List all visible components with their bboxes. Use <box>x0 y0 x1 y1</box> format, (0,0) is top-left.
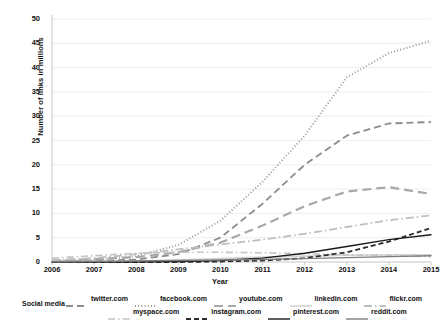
legend-swatch-icon <box>66 295 88 301</box>
legend-swatch-icon <box>186 308 208 314</box>
legend-item-instagram-com[interactable]: instagram.com <box>186 308 261 315</box>
series-line-twitter-com <box>52 122 431 261</box>
x-tick-label: 2008 <box>116 265 156 274</box>
legend-item-pinterest-com[interactable]: pinterest.com <box>268 308 339 315</box>
legend-label: facebook.com <box>160 295 207 302</box>
legend-label: flickr.com <box>389 295 422 302</box>
legend-swatch-icon <box>268 308 290 314</box>
x-tick-label: 2011 <box>243 265 283 274</box>
x-tick-label: 2007 <box>74 265 114 274</box>
legend-swatch-icon <box>135 295 157 301</box>
series-line-facebook-com <box>52 41 431 261</box>
series-lines <box>52 41 431 262</box>
x-tick-label: 2013 <box>327 265 367 274</box>
legend-label: instagram.com <box>211 308 261 315</box>
legend-item-youtube-com[interactable]: youtube.com <box>214 295 283 302</box>
y-tick-label: 15 <box>14 184 40 193</box>
x-tick-label: 2014 <box>369 265 409 274</box>
legend-row-primary: twitter.comfacebook.comyoutube.comlinked… <box>66 292 429 304</box>
y-tick-label: 40 <box>14 63 40 72</box>
legend-title: Social media <box>22 300 65 307</box>
legend-swatch-icon <box>364 295 386 301</box>
legend-item-reddit-com[interactable]: reddit.com <box>346 308 407 315</box>
gridlines <box>52 19 431 262</box>
legend-label: reddit.com <box>371 308 407 315</box>
y-tick-label: 50 <box>14 14 40 23</box>
x-tick-label: 2009 <box>158 265 198 274</box>
legend-swatch-icon <box>346 308 368 314</box>
legend-swatch-icon <box>108 308 130 314</box>
legend-label: pinterest.com <box>293 308 339 315</box>
legend-label: linkedin.com <box>315 295 358 302</box>
series-line-youtube-com <box>52 187 431 260</box>
y-tick-label: 45 <box>14 38 40 47</box>
legend-label: myspace.com <box>133 308 179 315</box>
legend-item-myspace-com[interactable]: myspace.com <box>108 308 179 315</box>
legend-item-linkedin-com[interactable]: linkedin.com <box>290 295 358 302</box>
legend-item-twitter-com[interactable]: twitter.com <box>66 295 128 302</box>
x-tick-label: 2015 <box>411 265 440 274</box>
y-tick-label: 20 <box>14 160 40 169</box>
x-tick-label: 2010 <box>200 265 240 274</box>
x-tick-label: 2006 <box>32 265 72 274</box>
legend: Social media twitter.comfacebook.comyout… <box>0 291 440 330</box>
legend-row-secondary: myspace.cominstagram.compinterest.comred… <box>108 305 414 317</box>
legend-label: youtube.com <box>239 295 283 302</box>
axis-lines <box>52 15 431 265</box>
legend-label: twitter.com <box>91 295 128 302</box>
legend-swatch-icon <box>290 295 312 301</box>
x-tick-label: 2012 <box>285 265 325 274</box>
legend-swatch-icon <box>214 295 236 301</box>
y-tick-label: 5 <box>14 233 40 242</box>
y-tick-label: 35 <box>14 87 40 96</box>
y-tick-label: 25 <box>14 136 40 145</box>
legend-item-facebook-com[interactable]: facebook.com <box>135 295 207 302</box>
x-axis-label: Year <box>0 277 440 286</box>
legend-item-flickr-com[interactable]: flickr.com <box>364 295 422 302</box>
y-tick-label: 10 <box>14 208 40 217</box>
y-tick-label: 30 <box>14 111 40 120</box>
line-chart: Number of links in millions Year 0510152… <box>0 0 440 330</box>
